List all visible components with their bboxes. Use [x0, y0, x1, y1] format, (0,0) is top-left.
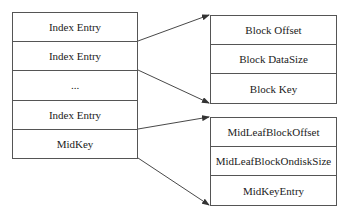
connector-arrows [0, 0, 348, 216]
arrow-to-mid-key-entry [138, 158, 209, 205]
arrow-to-mid-leaf-block-offset [138, 117, 209, 129]
arrow-to-block-key [138, 70, 209, 103]
arrow-to-block-offset [138, 15, 209, 41]
